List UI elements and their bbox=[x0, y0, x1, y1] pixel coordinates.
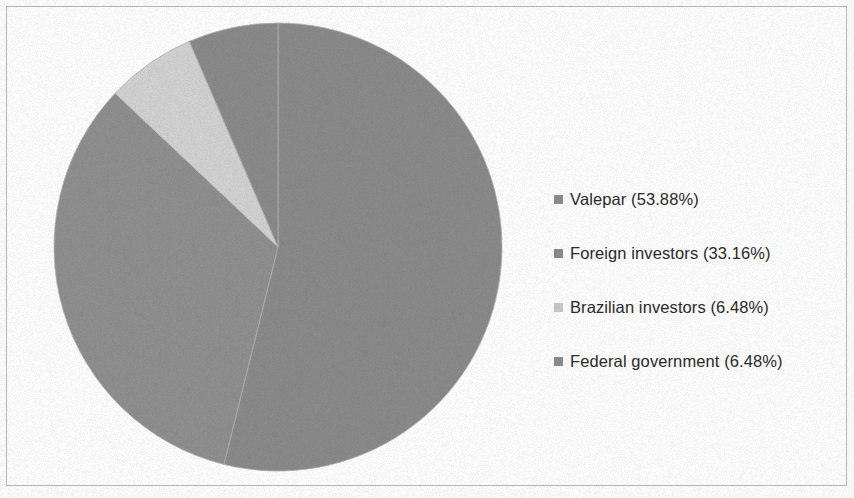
legend-item-label: Foreign investors (33.16%) bbox=[570, 244, 771, 263]
legend-swatch-icon bbox=[554, 195, 563, 204]
legend-item-label: Valepar (53.88%) bbox=[570, 190, 699, 209]
legend-item-brazilian-investors: Brazilian investors (6.48%) bbox=[554, 280, 844, 334]
chart-legend: Valepar (53.88%) Foreign investors (33.1… bbox=[554, 172, 844, 388]
legend-swatch-icon bbox=[554, 303, 563, 312]
chart-plot-area: Valepar (53.88%) Foreign investors (33.1… bbox=[0, 0, 854, 498]
legend-item-valepar: Valepar (53.88%) bbox=[554, 172, 844, 226]
legend-item-federal-government: Federal government (6.48%) bbox=[554, 334, 844, 388]
legend-swatch-icon bbox=[554, 357, 563, 366]
pie-graphic bbox=[53, 22, 503, 472]
legend-item-label: Brazilian investors (6.48%) bbox=[570, 298, 769, 317]
pie-chart-figure: Valepar (53.88%) Foreign investors (33.1… bbox=[0, 0, 854, 498]
legend-swatch-icon bbox=[554, 249, 563, 258]
legend-item-label: Federal government (6.48%) bbox=[570, 352, 783, 371]
pie-slice-group bbox=[54, 23, 502, 471]
pie-svg bbox=[53, 22, 503, 472]
legend-item-foreign-investors: Foreign investors (33.16%) bbox=[554, 226, 844, 280]
